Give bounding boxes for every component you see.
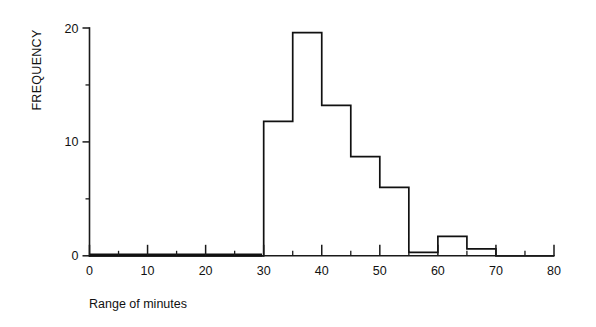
x-axis-title: Range of minutes [89, 297, 187, 311]
x-tick-label: 50 [373, 264, 387, 278]
histogram-bar [438, 236, 467, 255]
x-tick-label: 40 [315, 264, 329, 278]
histogram-bar [467, 249, 496, 256]
x-tick-label: 70 [489, 264, 503, 278]
histogram-bar [351, 157, 380, 256]
y-axis-title: FREQUENCY [30, 29, 44, 111]
x-tick-label: 80 [547, 264, 561, 278]
x-tick-label: 30 [257, 264, 271, 278]
x-tick-label: 20 [199, 264, 213, 278]
y-tick-label: 0 [72, 249, 79, 263]
histogram-bar [293, 33, 322, 256]
x-tick-label: 10 [141, 264, 155, 278]
y-tick-label: 10 [65, 135, 79, 149]
x-tick-label: 0 [86, 264, 93, 278]
histogram-bar [322, 105, 351, 255]
histogram-bar [380, 187, 409, 255]
histogram-figure: 01020 FREQUENCY 01020304050607080 Range … [0, 0, 596, 327]
histogram-bar [264, 121, 293, 255]
chart-canvas: 01020 FREQUENCY 01020304050607080 Range … [0, 0, 596, 327]
x-tick-label: 60 [431, 264, 445, 278]
y-tick-label: 20 [65, 22, 79, 36]
